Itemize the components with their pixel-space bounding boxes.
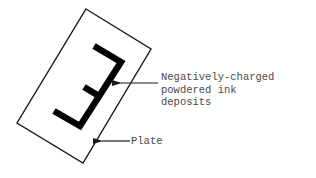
ink-label-line-1: Negatively-charged bbox=[161, 71, 274, 84]
ink-deposits-label: Negatively-chargedpowdered inkdeposits bbox=[161, 71, 274, 109]
ink-label-line-2: powdered ink bbox=[161, 84, 274, 97]
plate-label: Plate bbox=[131, 135, 163, 148]
ink-label-line-3: deposits bbox=[161, 96, 274, 109]
